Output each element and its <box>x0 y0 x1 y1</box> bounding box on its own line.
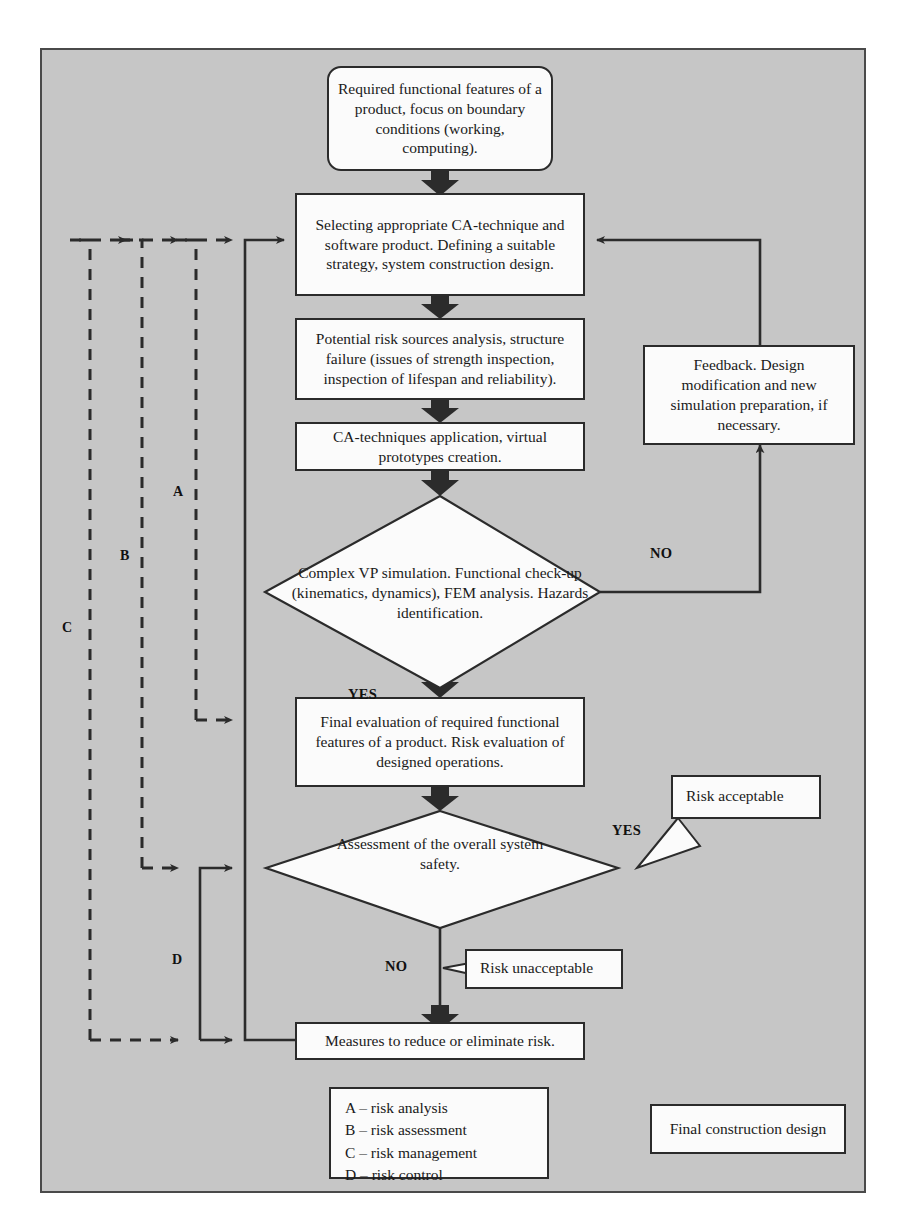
node-start: Required functional features of a produc… <box>327 66 553 171</box>
node-measures-to-reduce-risk: Measures to reduce or eliminate risk. <box>295 1022 585 1060</box>
branch-label-c: C <box>62 620 72 636</box>
branch-label-a-text: A <box>173 484 183 499</box>
legend-item-c: C – risk management <box>345 1142 533 1164</box>
edge-label-assessment-yes-text: YES <box>612 822 641 838</box>
legend-item-d: D – risk control <box>345 1164 533 1186</box>
node-final-evaluation-text: Final evaluation of required functional … <box>305 712 575 771</box>
flowchart-page: Required functional features of a produc… <box>0 0 908 1225</box>
node-risk-sources-text: Potential risk sources analysis, structu… <box>305 329 575 388</box>
node-final-construction-design: Final construction design <box>650 1104 846 1154</box>
node-feedback: Feedback. Design modification and new si… <box>643 345 855 445</box>
node-selecting-text: Selecting appropriate CA-technique and s… <box>305 215 575 274</box>
branch-label-b: B <box>120 548 129 564</box>
node-ca-application-text: CA-techniques application, virtual proto… <box>305 427 575 467</box>
legend-item-b: B – risk assessment <box>345 1119 533 1141</box>
node-final-design-text: Final construction design <box>670 1119 827 1139</box>
node-measures-text: Measures to reduce or eliminate risk. <box>325 1031 555 1051</box>
branch-label-b-text: B <box>120 548 129 563</box>
branch-label-d: D <box>172 952 182 968</box>
edge-label-assessment-no-text: NO <box>385 958 407 974</box>
node-final-evaluation: Final evaluation of required functional … <box>295 697 585 787</box>
edge-label-assessment-no: NO <box>385 958 407 975</box>
branch-label-d-text: D <box>172 952 182 967</box>
edge-label-simulation-yes: YES <box>348 686 377 703</box>
branch-label-c-text: C <box>62 620 72 635</box>
callout-risk-acceptable-text: Risk acceptable <box>686 787 784 805</box>
legend-box: A – risk analysis B – risk assessment C … <box>329 1087 549 1179</box>
callout-risk-acceptable-label: Risk acceptable <box>686 787 784 804</box>
node-selecting-ca-technique: Selecting appropriate CA-technique and s… <box>295 193 585 296</box>
node-ca-techniques-application: CA-techniques application, virtual proto… <box>295 422 585 471</box>
callout-risk-unacceptable-label: Risk unacceptable <box>480 959 593 976</box>
legend-item-a: A – risk analysis <box>345 1097 533 1119</box>
branch-label-a: A <box>173 484 183 500</box>
edge-label-simulation-no-text: NO <box>650 545 672 561</box>
node-feedback-text: Feedback. Design modification and new si… <box>653 355 845 434</box>
node-risk-sources-analysis: Potential risk sources analysis, structu… <box>295 318 585 400</box>
edge-label-simulation-yes-text: YES <box>348 686 377 702</box>
callout-risk-unacceptable-text: Risk unacceptable <box>480 959 593 977</box>
node-start-text: Required functional features of a produc… <box>337 79 543 158</box>
edge-label-simulation-no: NO <box>650 545 672 562</box>
edge-label-assessment-yes: YES <box>612 822 641 839</box>
